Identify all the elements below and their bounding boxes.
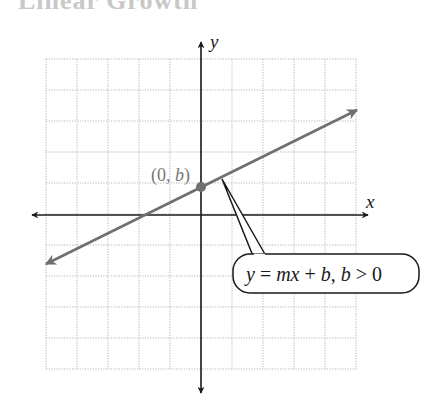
y-intercept-point [196,182,206,192]
y-intercept-label: (0, b) [151,165,190,186]
coordinate-plane-diagram: x y (0, b) y = mx + b, b > 0 y = mx + b,… [0,0,444,415]
callout-pointer [222,179,266,256]
callout-equation: y = mx + b, b > 0 [244,263,382,286]
x-axis-label: x [365,191,375,212]
y-axis-label: y [208,31,219,52]
